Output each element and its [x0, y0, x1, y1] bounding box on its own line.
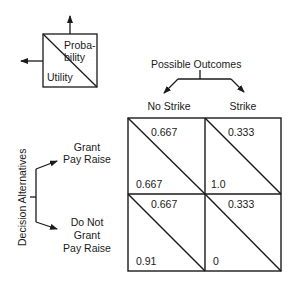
arrow-strike-icon — [231, 79, 244, 92]
cell-utility: 0 — [213, 255, 219, 267]
payoff-grid — [128, 118, 281, 271]
arrow-grant-icon — [36, 161, 57, 169]
cell-utility: 0.667 — [136, 178, 162, 190]
outcome-strike: Strike — [220, 100, 266, 112]
arrow-no-strike-icon — [164, 79, 178, 93]
alternatives-header: Decision Alternatives — [16, 149, 28, 246]
cell-utility: 0.91 — [136, 255, 156, 267]
outcomes-bracket — [164, 70, 244, 93]
cell-probability: 0.333 — [228, 198, 254, 210]
alternative-do-not-grant: Do Not Grant Pay Raise — [62, 216, 112, 255]
legend-probability-label: Proba- bility — [64, 39, 96, 63]
cell-probability: 0.333 — [228, 126, 254, 138]
outcome-no-strike: No Strike — [140, 100, 198, 112]
alternatives-bracket — [30, 161, 57, 229]
cell-probability: 0.667 — [151, 126, 177, 138]
arrow-no-grant-icon — [36, 222, 57, 229]
cell-probability: 0.667 — [151, 198, 177, 210]
cell-utility: 1.0 — [211, 178, 226, 190]
legend-utility-label: Utility — [47, 71, 73, 83]
outcomes-header: Possible Outcomes — [151, 58, 241, 70]
diagram-lines — [0, 0, 294, 289]
alternative-grant: Grant Pay Raise — [62, 141, 112, 165]
